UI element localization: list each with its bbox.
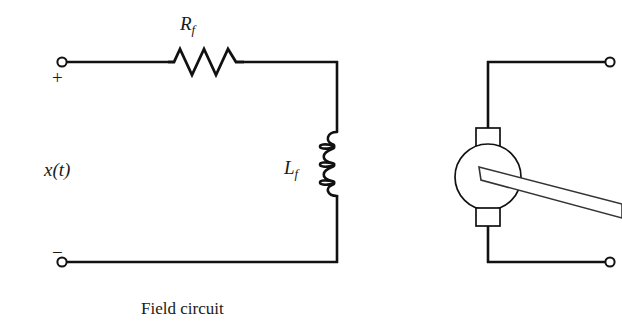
resistor-symbol	[168, 49, 244, 75]
polarity-positive-label: +	[52, 68, 63, 87]
polarity-negative-label: −	[52, 243, 63, 262]
circuit-diagram: Rf Lf x(t) + − Field circuit	[0, 0, 622, 333]
terminal-motor-top[interactable]	[605, 57, 614, 66]
terminal-motor-bottom[interactable]	[605, 257, 614, 266]
inductor-label-subscript: f	[295, 166, 299, 181]
inductor-label: Lf	[284, 158, 298, 180]
resistor-label-symbol: R	[180, 13, 192, 34]
motor-group	[455, 57, 622, 266]
brush-bottom	[476, 208, 500, 226]
terminal-positive[interactable]	[57, 57, 66, 66]
inductor-symbol	[320, 132, 337, 196]
source-label: x(t)	[44, 160, 70, 179]
diagram-caption: Field circuit	[141, 300, 224, 317]
inductor-label-symbol: L	[284, 157, 295, 178]
resistor-label: Rf	[180, 14, 195, 36]
resistor-label-subscript: f	[192, 22, 196, 37]
circuit-schematic-svg	[0, 0, 622, 333]
